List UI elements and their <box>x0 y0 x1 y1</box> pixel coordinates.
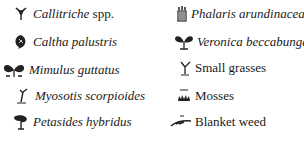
legend-label: Blanket weed <box>195 114 266 130</box>
legend-item-small-grasses: Small grasses <box>178 60 266 76</box>
legend-item-phalaris: Phalaris arundinacea <box>176 6 304 22</box>
veronica-icon <box>174 34 194 50</box>
legend-item-mimulus: Mimulus guttatus <box>2 62 120 78</box>
blanket-weed-icon <box>170 114 192 130</box>
phalaris-icon <box>176 6 188 22</box>
caltha-leaf-icon <box>12 34 30 50</box>
legend-item-caltha: Caltha palustris <box>12 34 117 50</box>
legend-item-blanket-weed: Blanket weed <box>170 114 266 130</box>
legend-label: Mosses <box>195 88 234 104</box>
legend-item-mosses: Mosses <box>176 88 234 104</box>
legend-label: Veronica beccabunga <box>197 34 304 50</box>
legend-label-roman: spp. <box>89 6 114 21</box>
petasides-icon <box>12 114 30 130</box>
mosses-icon <box>176 88 192 104</box>
legend-label: Mimulus guttatus <box>29 62 120 78</box>
legend-label-italic: Callitriche <box>33 6 89 21</box>
legend-item-myosotis: Myosotis scorpioides <box>14 88 145 104</box>
legend-label: Caltha palustris <box>33 34 117 50</box>
legend-label: Phalaris arundinacea <box>191 6 304 22</box>
myosotis-icon <box>14 88 32 104</box>
legend-label: Petasides hybridus <box>33 114 132 130</box>
legend-item-petasides: Petasides hybridus <box>12 114 132 130</box>
small-grasses-icon <box>178 60 192 76</box>
mimulus-icon <box>2 62 26 78</box>
legend-item-veronica: Veronica beccabunga <box>174 34 304 50</box>
legend-label: Myosotis scorpioides <box>35 88 145 104</box>
callitriche-icon <box>12 6 30 22</box>
legend-item-callitriche: Callitriche spp. <box>12 6 114 22</box>
legend-label: Small grasses <box>195 60 266 76</box>
